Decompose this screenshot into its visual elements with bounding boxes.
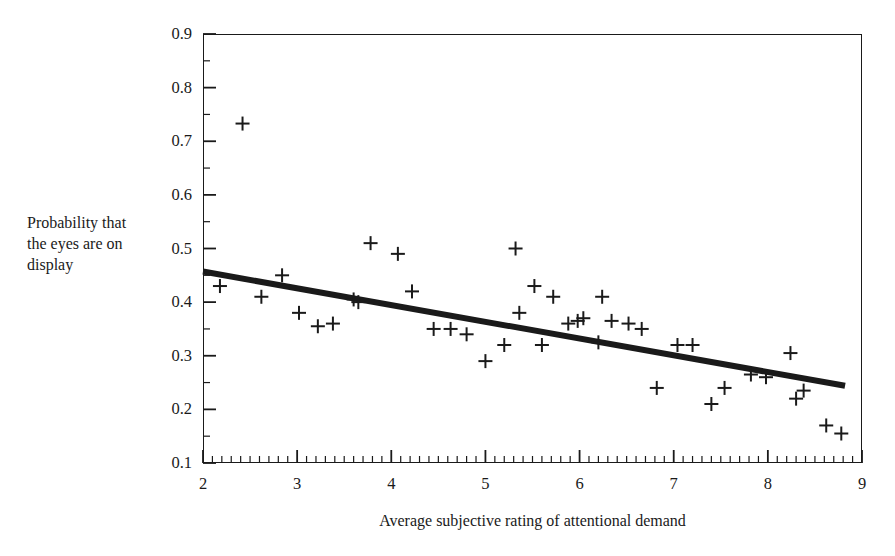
figure-scatter-plot: 0.10.20.30.40.50.60.70.80.9 23456789 Pro…	[0, 0, 895, 556]
x-axis-tick-label: 7	[670, 476, 678, 493]
x-axis-tick-label: 3	[293, 476, 301, 493]
x-axis-tick-label: 9	[858, 476, 866, 493]
x-axis-tick-label: 5	[481, 476, 489, 493]
x-axis-tick-label: 6	[575, 476, 583, 493]
y-axis-title-line: the eyes are on	[27, 233, 155, 254]
x-axis-tick-label: 4	[387, 476, 395, 493]
y-axis-title-line: Probability that	[27, 212, 155, 233]
x-axis-tick-labels: 23456789	[0, 0, 895, 556]
y-axis-title-line: display	[27, 254, 155, 275]
x-axis-title: Average subjective rating of attentional…	[203, 512, 862, 530]
x-axis-tick-label: 8	[764, 476, 772, 493]
y-axis-title: Probability thatthe eyes are ondisplay	[27, 212, 155, 275]
x-axis-tick-label: 2	[199, 476, 207, 493]
